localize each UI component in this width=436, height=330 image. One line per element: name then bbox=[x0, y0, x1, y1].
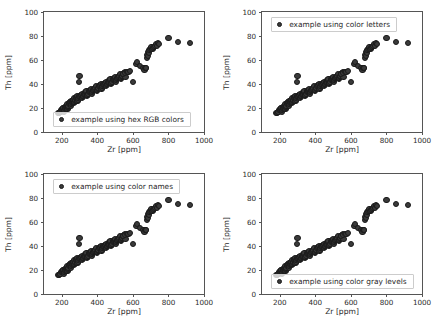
x-tick-label: 200 bbox=[55, 136, 68, 145]
y-tick-label: 100 bbox=[243, 8, 256, 17]
x-tick-label: 1000 bbox=[413, 298, 431, 307]
data-point bbox=[348, 241, 354, 247]
legend[interactable]: example using color gray levels bbox=[271, 274, 414, 289]
y-tick bbox=[259, 84, 262, 85]
x-tick bbox=[133, 294, 134, 297]
y-tick-label: 80 bbox=[29, 194, 38, 203]
y-tick bbox=[41, 36, 44, 37]
y-tick-label: 60 bbox=[247, 218, 256, 227]
legend-marker-icon bbox=[59, 117, 64, 122]
data-point bbox=[187, 202, 193, 208]
y-tick-label: 100 bbox=[25, 170, 38, 179]
legend-label: example using color names bbox=[71, 182, 173, 191]
data-point bbox=[383, 197, 389, 203]
subplot-bottom-left: Th [ppm] example using color names 20040… bbox=[0, 162, 218, 327]
subplot-bottom-right: Th [ppm] example using color gray levels… bbox=[218, 162, 436, 327]
x-tick bbox=[280, 132, 281, 135]
y-tick-label: 60 bbox=[29, 56, 38, 65]
data-point bbox=[405, 40, 411, 46]
x-tick-label: 200 bbox=[273, 136, 286, 145]
subplot-top-left: Th [ppm] example using hex RGB colors 20… bbox=[0, 0, 218, 165]
data-point bbox=[361, 65, 367, 71]
data-point bbox=[393, 201, 399, 207]
legend[interactable]: example using color names bbox=[53, 179, 180, 194]
data-point bbox=[156, 41, 162, 47]
legend[interactable]: example using hex RGB colors bbox=[53, 112, 191, 127]
x-tick bbox=[422, 132, 423, 135]
y-axis-label: Th [ppm] bbox=[3, 11, 14, 133]
y-tick-label: 60 bbox=[247, 56, 256, 65]
data-point bbox=[76, 241, 82, 247]
data-point bbox=[361, 227, 367, 233]
y-tick bbox=[41, 270, 44, 271]
data-point bbox=[127, 230, 133, 236]
y-tick bbox=[259, 12, 262, 13]
legend-label: example using color letters bbox=[289, 20, 390, 29]
x-axis-label: Zr [ppm] bbox=[261, 145, 423, 154]
x-tick bbox=[168, 294, 169, 297]
y-tick-label: 20 bbox=[247, 266, 256, 275]
y-tick-label: 20 bbox=[29, 104, 38, 113]
data-point bbox=[187, 40, 193, 46]
data-point bbox=[76, 235, 82, 241]
y-tick-label: 20 bbox=[29, 266, 38, 275]
x-tick-label: 400 bbox=[91, 136, 104, 145]
y-tick-label: 80 bbox=[247, 194, 256, 203]
data-point bbox=[175, 39, 181, 45]
y-tick-label: 80 bbox=[29, 32, 38, 41]
x-tick-label: 400 bbox=[309, 298, 322, 307]
data-point bbox=[374, 41, 380, 47]
x-tick bbox=[62, 132, 63, 135]
y-tick-label: 0 bbox=[252, 128, 256, 137]
data-point bbox=[294, 235, 300, 241]
x-tick bbox=[62, 294, 63, 297]
x-tick bbox=[133, 132, 134, 135]
data-point bbox=[374, 203, 380, 209]
axes-area: example using hex RGB colors 20040060080… bbox=[43, 11, 205, 133]
x-tick-label: 600 bbox=[126, 298, 139, 307]
y-tick bbox=[41, 174, 44, 175]
x-tick bbox=[97, 294, 98, 297]
legend[interactable]: example using color letters bbox=[271, 17, 397, 32]
x-tick-label: 800 bbox=[162, 298, 175, 307]
x-tick-label: 200 bbox=[273, 298, 286, 307]
data-point bbox=[175, 201, 181, 207]
y-tick bbox=[259, 60, 262, 61]
x-tick-label: 800 bbox=[380, 136, 393, 145]
y-tick-label: 0 bbox=[34, 128, 38, 137]
y-tick-label: 60 bbox=[29, 218, 38, 227]
y-tick-label: 40 bbox=[29, 80, 38, 89]
y-axis-label: Th [ppm] bbox=[221, 11, 232, 133]
axes-area: example using color letters 200400600800… bbox=[261, 11, 423, 133]
y-tick-label: 0 bbox=[34, 290, 38, 299]
x-tick-label: 800 bbox=[380, 298, 393, 307]
y-tick bbox=[259, 270, 262, 271]
y-tick bbox=[41, 108, 44, 109]
y-tick bbox=[41, 84, 44, 85]
y-tick bbox=[259, 174, 262, 175]
x-tick-label: 600 bbox=[344, 136, 357, 145]
x-tick bbox=[351, 132, 352, 135]
y-tick bbox=[259, 108, 262, 109]
y-tick-label: 40 bbox=[29, 242, 38, 251]
legend-marker-icon bbox=[59, 184, 64, 189]
y-axis-label: Th [ppm] bbox=[3, 173, 14, 295]
x-tick-label: 600 bbox=[126, 136, 139, 145]
data-point bbox=[143, 227, 149, 233]
figure-scatter-grid: Th [ppm] example using hex RGB colors 20… bbox=[0, 0, 436, 330]
x-tick bbox=[168, 132, 169, 135]
x-tick bbox=[351, 294, 352, 297]
data-point bbox=[130, 79, 136, 85]
y-tick bbox=[41, 60, 44, 61]
legend-marker-icon bbox=[277, 279, 282, 284]
y-tick-label: 40 bbox=[247, 242, 256, 251]
x-tick-label: 200 bbox=[55, 298, 68, 307]
y-tick bbox=[41, 198, 44, 199]
y-axis-label: Th [ppm] bbox=[221, 173, 232, 295]
data-point bbox=[294, 73, 300, 79]
x-tick-label: 600 bbox=[344, 298, 357, 307]
y-tick bbox=[41, 246, 44, 247]
y-tick bbox=[259, 198, 262, 199]
y-tick bbox=[41, 222, 44, 223]
y-tick-label: 100 bbox=[25, 8, 38, 17]
